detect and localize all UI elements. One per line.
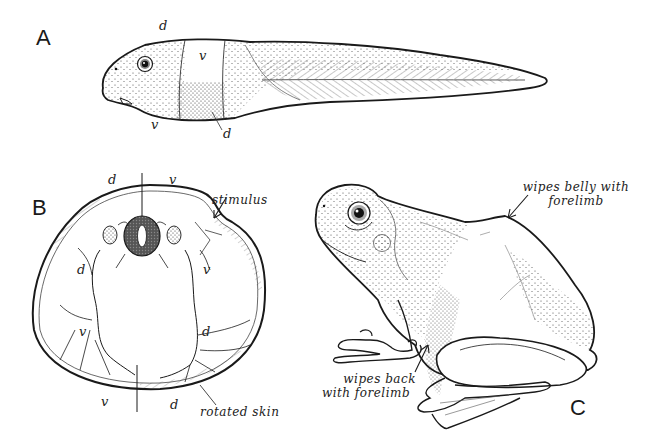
- label-b-ventral-lower-left: v: [79, 324, 86, 339]
- tadpole-drawing: [100, 38, 550, 130]
- panel-letter-b: B: [32, 195, 47, 221]
- annotation-rotated-skin: rotated skin: [200, 405, 279, 419]
- label-b-dorsal-left: d: [77, 262, 85, 277]
- panel-letter-c: C: [570, 395, 586, 421]
- label-b-ventral-right: v: [203, 262, 210, 277]
- label-b-dorsal-top-left: d: [108, 172, 116, 187]
- label-b-dorsal-bottom: d: [170, 397, 178, 412]
- annotation-wipes-back-line1: wipes back: [312, 372, 420, 386]
- panel-letter-a: A: [36, 25, 51, 51]
- annotation-wipes-belly: wipes belly with forelimb: [508, 180, 644, 208]
- annotation-stimulus: stimulus: [212, 193, 268, 207]
- label-b-dorsal-lower-right: d: [202, 324, 210, 339]
- label-b-ventral-bottom: v: [101, 394, 108, 409]
- cross-section-drawing: [33, 173, 265, 412]
- label-a-dorsal-top: d: [159, 18, 167, 33]
- annotation-wipes-belly-line2: forelimb: [508, 194, 644, 208]
- label-a-ventral-bottom: v: [151, 117, 158, 132]
- label-b-ventral-top-right: v: [169, 172, 176, 187]
- label-a-ventral-band: v: [199, 48, 206, 63]
- annotation-wipes-back: wipes back with forelimb: [312, 372, 420, 400]
- annotation-wipes-back-line2: with forelimb: [312, 386, 420, 400]
- label-a-dorsal-band: d: [223, 126, 231, 141]
- annotation-wipes-belly-line1: wipes belly with: [508, 180, 644, 194]
